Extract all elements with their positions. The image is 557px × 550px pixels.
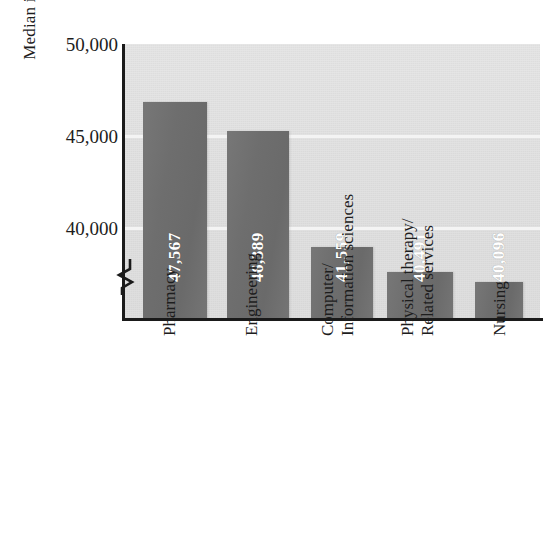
x-label-line-1: Engineering (242, 253, 261, 336)
x-label-nursing[interactable]: Nursing (490, 281, 510, 336)
x-label-line-2: Related services (418, 218, 438, 336)
y-tick-label-50000: 50,000 (32, 35, 118, 54)
x-label-engineering[interactable]: Engineering (242, 253, 262, 336)
y-tick-label-45000: 45,000 (32, 127, 118, 146)
x-label-computer-information-sciences[interactable]: Computer/ Information sciences (318, 194, 358, 336)
x-label-line-1: Pharmacy (160, 268, 179, 336)
x-label-line-1: Computer/ (318, 263, 337, 336)
x-label-line-1: Physical therapy/ (398, 218, 417, 336)
y-tick-label-40000: 40,000 (32, 219, 118, 238)
x-label-pharmacy[interactable]: Pharmacy (160, 268, 180, 336)
axis-break-icon (110, 258, 142, 296)
x-label-physical-therapy-related-services[interactable]: Physical therapy/ Related services (398, 218, 438, 336)
x-label-line-2: Information sciences (338, 194, 358, 336)
y-axis-tick-labels: 50,000 45,000 40,000 (26, 0, 118, 550)
x-label-line-1: Nursing (490, 281, 509, 336)
